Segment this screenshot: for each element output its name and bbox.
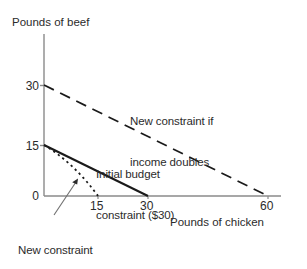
chicken-price-annotation-arrow-shaft: [54, 182, 76, 215]
annotation-income-doubles-line1: New constraint if: [130, 115, 213, 129]
y-axis-title: Pounds of beef: [12, 16, 89, 28]
y-tick-label-15: 15: [21, 139, 39, 153]
chicken-price-doubles-constraint-line: [44, 145, 98, 196]
annotation-chicken-price-doubles: New constraint if chicken price doubles: [18, 217, 93, 269]
x-axis-title: Pounds of chicken: [170, 216, 264, 228]
budget-constraint-chart: Pounds of beef Pounds of chicken 30 15 0…: [0, 0, 307, 269]
y-tick-label-30: 30: [21, 79, 39, 93]
annotation-chicken-price-line1: New constraint: [18, 244, 93, 258]
y-tick-label-0: 0: [21, 189, 39, 203]
annotation-initial-budget-line2: constraint ($30): [96, 209, 174, 223]
annotation-initial-budget: Initial budget constraint ($30): [96, 141, 174, 249]
x-tick-label-60: 60: [260, 199, 273, 213]
annotation-initial-budget-line1: Initial budget: [96, 168, 174, 182]
